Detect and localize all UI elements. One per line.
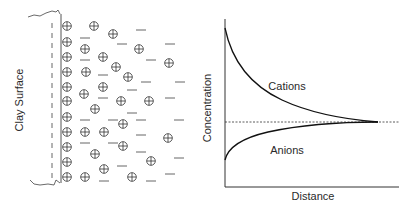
cation-icon bbox=[82, 68, 91, 77]
cation-icon bbox=[124, 73, 133, 82]
cation-icon bbox=[91, 150, 100, 159]
cation-icon bbox=[100, 128, 109, 137]
cation-icon bbox=[63, 83, 72, 92]
cation-icon bbox=[63, 173, 72, 182]
cation-icon bbox=[109, 30, 118, 39]
cation-icon bbox=[63, 113, 72, 122]
cation-icon bbox=[165, 59, 174, 68]
surface-top-edge bbox=[28, 10, 60, 17]
cation-icon bbox=[81, 128, 90, 137]
cation-icon bbox=[135, 45, 144, 54]
cation-icon bbox=[90, 22, 99, 31]
y-axis-label: Concentration bbox=[201, 74, 213, 143]
clay-surface-diagram: Clay Surface bbox=[13, 10, 185, 185]
double-layer-figure: Clay Surface Cations Anions Distance Con… bbox=[0, 0, 413, 211]
cation-icon bbox=[63, 143, 72, 152]
anions-label: Anions bbox=[270, 144, 304, 156]
cation-icon bbox=[63, 38, 72, 47]
surface-bottom-edge bbox=[30, 180, 60, 185]
x-axis-label: Distance bbox=[292, 190, 335, 202]
cation-icon bbox=[63, 22, 72, 31]
cation-icon bbox=[119, 142, 128, 151]
cation-icon bbox=[63, 68, 72, 77]
concentration-chart: Cations Anions Distance Concentration bbox=[201, 19, 400, 202]
cation-icon bbox=[100, 165, 109, 174]
cation-icon bbox=[81, 173, 90, 182]
cations-label: Cations bbox=[268, 80, 306, 92]
cation-icon bbox=[164, 134, 173, 143]
cation-icon bbox=[117, 97, 126, 106]
cation-icon bbox=[80, 90, 89, 99]
cation-icon bbox=[63, 53, 72, 62]
cation-icon bbox=[112, 63, 121, 72]
cation-icon bbox=[147, 157, 156, 166]
cation-icon bbox=[81, 45, 90, 54]
cation-icon bbox=[63, 158, 72, 167]
cation-icon bbox=[63, 128, 72, 137]
ion-layer bbox=[63, 22, 185, 182]
cation-icon bbox=[99, 53, 108, 62]
cation-icon bbox=[63, 97, 72, 106]
cation-icon bbox=[128, 173, 137, 182]
cation-icon bbox=[145, 97, 154, 106]
cation-icon bbox=[99, 83, 108, 92]
clay-surface-label: Clay Surface bbox=[13, 69, 25, 132]
cation-icon bbox=[91, 105, 100, 114]
cation-icon bbox=[119, 120, 128, 129]
cations-curve bbox=[225, 28, 378, 122]
